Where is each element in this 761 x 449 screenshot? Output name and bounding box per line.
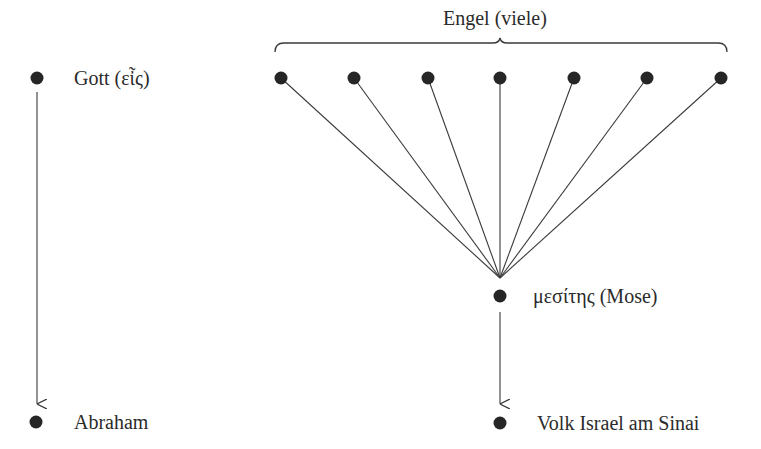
angel-node [715, 72, 728, 85]
volk-label: Volk Israel am Sinai [537, 413, 699, 433]
angel-node [641, 72, 654, 85]
angel-node [348, 72, 361, 85]
volk-node [494, 417, 507, 430]
mediator-label: μεσίτης (Mose) [533, 286, 657, 306]
abraham-label: Abraham [74, 412, 148, 432]
angel-node [422, 72, 435, 85]
gott-node [31, 72, 44, 85]
angel-lines [281, 78, 721, 278]
mediator-node [494, 290, 507, 303]
angel-node [494, 72, 507, 85]
abraham-node [30, 416, 43, 429]
angel-nodes [275, 72, 728, 85]
angel-node [568, 72, 581, 85]
angels-brace [275, 38, 727, 52]
angels-group-label: Engel (viele) [443, 8, 547, 28]
angel-node [275, 72, 288, 85]
gott-label: Gott (εἶς) [74, 68, 150, 88]
